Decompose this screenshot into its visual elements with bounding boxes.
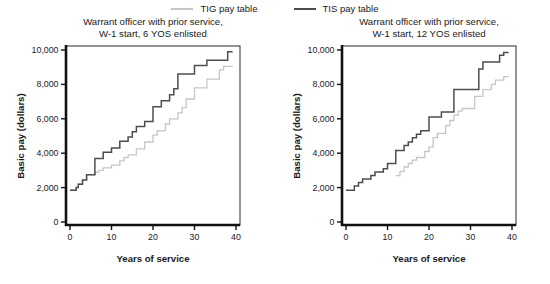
legend-label-tis: TIS pay table (323, 3, 379, 14)
x-tick-label: 30 (466, 232, 476, 242)
x-axis-label: Years of service (346, 253, 512, 264)
y-tick-label: 8,000 (312, 79, 334, 89)
chart-title-12yos: Warrant officer with prior service, W-1 … (340, 16, 518, 40)
x-tick-label: 0 (68, 232, 73, 242)
legend-item-tis: TIS pay table (294, 3, 379, 14)
y-tick-label: 6,000 (312, 114, 334, 124)
legend: TIG pay table TIS pay table (0, 3, 550, 14)
tig-line-swatch-icon (171, 8, 193, 10)
step-chart-12yos: 02,0004,0006,0008,00010,000010203040 (306, 42, 518, 250)
y-axis-label: Basic pay (dollars) (291, 61, 305, 211)
x-tick-label: 20 (148, 232, 158, 242)
chart-panel-6yos: Warrant officer with prior service, W-1 … (16, 16, 242, 264)
plot-frame (342, 46, 516, 225)
chart-title-line2: W-1 start, 12 YOS enlisted (372, 28, 485, 40)
y-tick-label: 8,000 (36, 79, 58, 89)
series-line-tis (346, 53, 509, 191)
y-tick-label: 0 (330, 217, 335, 227)
legend-item-tig: TIG pay table (171, 3, 257, 14)
series-line-tig (396, 77, 509, 176)
x-tick-label: 30 (190, 232, 200, 242)
y-tick-label: 0 (54, 217, 59, 227)
pay-table-comparison-figure: TIG pay table TIS pay table Warrant offi… (0, 0, 550, 284)
x-tick-label: 10 (107, 232, 117, 242)
chart-panel-12yos: Warrant officer with prior service, W-1 … (292, 16, 518, 264)
legend-label-tig: TIG pay table (200, 3, 257, 14)
x-tick-label: 10 (383, 232, 393, 242)
y-tick-label: 4,000 (36, 148, 58, 158)
x-axis-label: Years of service (70, 253, 236, 264)
y-tick-label: 10,000 (308, 45, 335, 55)
chart-title-6yos: Warrant officer with prior service, W-1 … (64, 16, 242, 40)
x-tick-label: 20 (424, 232, 434, 242)
chart-title-line2: W-1 start, 6 YOS enlisted (99, 28, 207, 40)
y-tick-label: 4,000 (312, 148, 334, 158)
y-tick-label: 2,000 (36, 183, 58, 193)
y-axis-label: Basic pay (dollars) (15, 61, 29, 211)
chart-title-line1: Warrant officer with prior service, (359, 16, 499, 28)
series-line-tis (70, 52, 233, 191)
x-tick-label: 0 (344, 232, 349, 242)
x-tick-label: 40 (231, 232, 241, 242)
tis-line-swatch-icon (294, 8, 316, 10)
y-tick-label: 6,000 (36, 114, 58, 124)
y-tick-label: 2,000 (312, 183, 334, 193)
chart-title-line1: Warrant officer with prior service, (83, 16, 223, 28)
x-tick-label: 40 (507, 232, 517, 242)
step-chart-6yos: 02,0004,0006,0008,00010,000010203040 (30, 42, 242, 250)
y-tick-label: 10,000 (32, 45, 59, 55)
